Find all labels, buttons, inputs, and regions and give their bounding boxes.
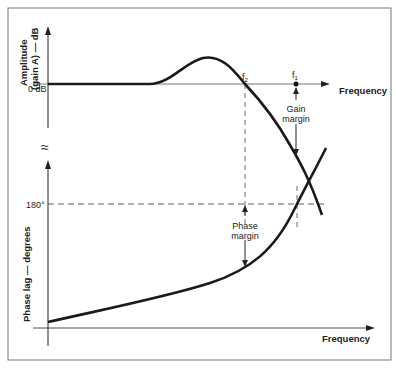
frame — [8, 8, 391, 360]
top-frequency-arrow-icon — [321, 81, 330, 87]
f1-label: f1 — [292, 70, 299, 81]
bode-diagram: ≈ Amplitude (gain A) — dB 0 dB Frequency… — [0, 0, 396, 368]
bottom-frequency-arrow-icon — [366, 325, 375, 331]
gain-margin-label-line1: Gain — [286, 104, 305, 114]
axis-break-symbol: ≈ — [41, 139, 49, 155]
amplitude-axis-arrow-icon — [45, 26, 51, 35]
top-frequency-label: Frequency — [339, 85, 388, 96]
gain-margin-label-line2: margin — [282, 114, 310, 124]
phase-axis-label: Phase lag — degrees — [21, 226, 32, 322]
zero-db-label: 0 dB — [28, 84, 47, 94]
amplitude-label-line1: Amplitude — [18, 40, 29, 86]
amplitude-label-line2: (gain A) — dB — [29, 27, 40, 90]
phase-margin-label-line2: margin — [231, 231, 259, 241]
phase-margin-label-line1: Phase — [232, 221, 258, 231]
bottom-frequency-label: Frequency — [322, 333, 371, 344]
phase-curve — [48, 148, 326, 322]
phase-180-label: 180° — [26, 200, 45, 210]
phase-margin-arrowhead-up-icon — [242, 205, 248, 212]
f2-label: f2 — [242, 72, 249, 83]
phase-axis-arrow-icon — [45, 160, 51, 169]
gain-margin-arrowhead-up-icon — [293, 87, 299, 94]
amplitude-curve — [48, 57, 322, 215]
f1-point — [294, 82, 299, 87]
